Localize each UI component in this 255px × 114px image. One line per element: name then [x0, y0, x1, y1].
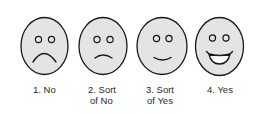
label-sort-of-no-line2: of No	[88, 95, 116, 106]
label-yes-line1: 4. Yes	[207, 84, 233, 95]
label-sort-of-yes-line1: 3. Sort	[146, 84, 174, 95]
face-sort-of-no-icon	[79, 18, 127, 75]
face-yes-icon	[196, 18, 244, 76]
label-sort-of-no: 2. Sort of No	[88, 84, 116, 106]
label-no: 1. No	[33, 84, 56, 95]
face-no-icon	[21, 18, 68, 75]
label-sort-of-yes-line2: of Yes	[146, 95, 174, 106]
face-sort-of-yes-icon	[137, 18, 187, 75]
label-no-line1: 1. No	[33, 84, 56, 95]
label-sort-of-no-line1: 2. Sort	[88, 84, 116, 95]
label-yes: 4. Yes	[207, 84, 233, 95]
smiley-rating-scale: 1. No 2. Sort of No 3. Sort of Yes 4. Ye…	[0, 0, 255, 114]
faces-graphic	[0, 0, 255, 114]
label-sort-of-yes: 3. Sort of Yes	[146, 84, 174, 106]
